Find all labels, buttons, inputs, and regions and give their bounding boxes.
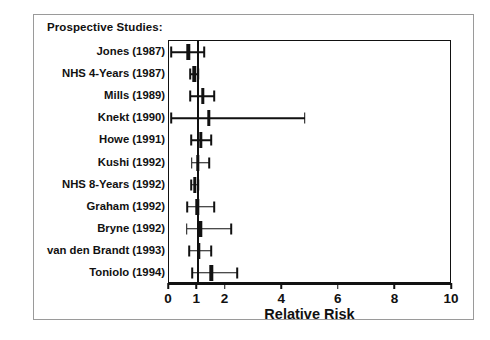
confidence-interval-line — [192, 272, 237, 274]
ci-cap-high — [208, 157, 210, 168]
x-axis-tick — [196, 283, 198, 289]
forest-row — [169, 154, 450, 172]
forest-row — [169, 131, 450, 149]
ci-cap-low — [187, 201, 189, 212]
ci-cap-low — [190, 179, 192, 190]
point-estimate-marker — [193, 66, 196, 82]
ci-cap-low — [170, 47, 172, 58]
x-axis-tick — [280, 283, 282, 289]
plot-area — [168, 40, 451, 283]
forest-row — [169, 242, 450, 260]
ci-cap-high — [211, 245, 213, 256]
x-axis-tick-label: 10 — [443, 291, 458, 306]
ci-cap-low — [191, 267, 193, 278]
point-estimate-marker — [197, 243, 200, 259]
x-axis-tick-label: 2 — [221, 291, 229, 306]
ci-cap-high — [213, 201, 215, 212]
x-axis-tick-label: 8 — [391, 291, 399, 306]
forest-row — [169, 43, 450, 61]
x-axis-tick — [450, 283, 452, 289]
study-label: NHS 4-Years (1987) — [40, 67, 165, 79]
x-axis-tick — [394, 283, 396, 289]
point-estimate-marker — [201, 88, 204, 104]
ci-cap-high — [230, 223, 232, 234]
ci-cap-low — [191, 157, 193, 168]
study-label: van den Brandt (1993) — [40, 244, 165, 256]
study-label: Toniolo (1994) — [40, 266, 165, 278]
forest-row — [169, 87, 450, 105]
study-label: Jones (1987) — [40, 45, 165, 57]
forest-row — [169, 176, 450, 194]
study-label: NHS 8-Years (1992) — [40, 178, 165, 190]
point-estimate-marker — [193, 177, 196, 193]
point-estimate-marker — [210, 265, 213, 281]
ci-cap-low — [190, 135, 192, 146]
confidence-interval-line — [187, 228, 232, 230]
ci-cap-high — [236, 267, 238, 278]
ci-cap-high — [198, 69, 200, 80]
x-axis-tick-label: 0 — [164, 291, 172, 306]
study-label: Howe (1991) — [40, 133, 165, 145]
x-axis-tick-label: 6 — [334, 291, 342, 306]
ci-cap-low — [189, 91, 191, 102]
study-label: Mills (1989) — [40, 89, 165, 101]
study-label: Graham (1992) — [40, 200, 165, 212]
x-axis-tick-label: 4 — [277, 291, 285, 306]
point-estimate-marker — [196, 155, 199, 171]
forest-row — [169, 264, 450, 282]
x-axis-tick — [167, 283, 169, 289]
point-estimate-marker — [196, 199, 199, 215]
point-estimate-marker — [199, 132, 202, 148]
confidence-interval-line — [187, 206, 214, 208]
point-estimate-marker — [198, 221, 201, 237]
ci-cap-high — [198, 179, 200, 190]
study-label: Bryne (1992) — [40, 222, 165, 234]
ci-cap-high — [204, 47, 206, 58]
forest-row — [169, 198, 450, 216]
plot-inner — [169, 41, 450, 282]
ci-cap-low — [170, 113, 172, 124]
confidence-interval-line — [171, 118, 305, 120]
x-axis-tick — [224, 283, 226, 289]
forest-plot-figure: Prospective Studies: Jones (1987)NHS 4-Y… — [0, 0, 490, 340]
ci-cap-low — [189, 69, 191, 80]
forest-row — [169, 65, 450, 83]
study-label-column: Jones (1987)NHS 4-Years (1987)Mills (198… — [40, 40, 165, 283]
x-axis-line — [168, 283, 451, 285]
section-heading: Prospective Studies: — [47, 21, 163, 33]
ci-cap-high — [304, 113, 306, 124]
ci-cap-high — [213, 91, 215, 102]
point-estimate-marker — [207, 110, 210, 126]
point-estimate-marker — [187, 44, 190, 60]
ci-cap-high — [211, 135, 213, 146]
study-label: Kushi (1992) — [40, 156, 165, 168]
confidence-interval-line — [189, 250, 211, 252]
x-axis-tick — [337, 283, 339, 289]
forest-row — [169, 220, 450, 238]
x-axis-title: Relative Risk — [168, 306, 451, 322]
x-axis-tick-label: 1 — [193, 291, 201, 306]
forest-row — [169, 109, 450, 127]
confidence-interval-line — [192, 162, 210, 164]
ci-cap-low — [186, 223, 188, 234]
study-label: Knekt (1990) — [40, 111, 165, 123]
ci-cap-low — [189, 245, 191, 256]
